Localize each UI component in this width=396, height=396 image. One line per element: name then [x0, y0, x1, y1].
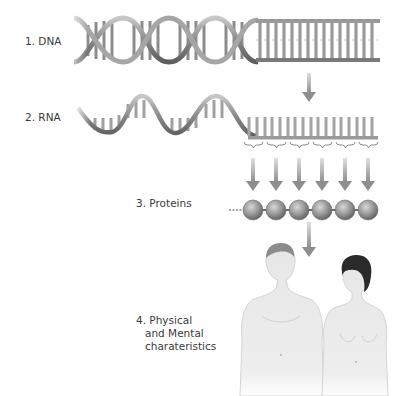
arrow-dna-to-rna-icon [302, 73, 316, 102]
label-line-1: 4. Physical [136, 314, 216, 327]
female-figure [322, 255, 388, 396]
label-physical-mental-characteristics: 4. Physical and Mental charateristics [136, 314, 216, 353]
label-line-3: charateristics [136, 340, 216, 353]
male-figure [240, 243, 324, 396]
dna-ladder [256, 19, 380, 62]
codon-braces [244, 142, 378, 148]
label-rna: 2. RNA [25, 111, 61, 124]
label-dna: 1. DNA [25, 35, 61, 48]
rna-comb [248, 117, 378, 140]
arrow-proteins-to-traits-icon [302, 222, 316, 257]
arrows-rna-to-proteins-icon [246, 158, 375, 191]
dna-helix [66, 12, 258, 68]
rna-strand [72, 95, 256, 136]
label-line-2: and Mental [136, 327, 216, 340]
protein-bead-chain [229, 200, 378, 220]
label-proteins: 3. Proteins [136, 197, 192, 210]
